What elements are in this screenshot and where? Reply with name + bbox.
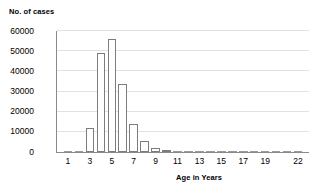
x-tick-label: 22 bbox=[287, 157, 309, 166]
bar-age-10 bbox=[162, 150, 171, 152]
bar-age-5 bbox=[108, 39, 117, 152]
bar-age-12 bbox=[184, 151, 193, 152]
bar-age-9 bbox=[151, 148, 160, 152]
x-tick-label: 15 bbox=[210, 157, 232, 166]
bar-age-8 bbox=[140, 141, 149, 152]
y-tick-label: 50000 bbox=[0, 47, 34, 56]
x-tick-label: 7 bbox=[123, 157, 145, 166]
bar-age-14 bbox=[206, 151, 215, 152]
y-tick-label: 10000 bbox=[0, 127, 34, 136]
histogram-chart: No. of cases 010000200003000040000500006… bbox=[0, 0, 327, 194]
bar-age-1 bbox=[64, 151, 73, 152]
x-tick-label: 3 bbox=[79, 157, 101, 166]
y-tick-label: 40000 bbox=[0, 67, 34, 76]
x-tick-label: 17 bbox=[232, 157, 254, 166]
x-tick-label: 13 bbox=[188, 157, 210, 166]
plot-area: 0100002000030000400005000060000 13579111… bbox=[57, 31, 309, 152]
y-tick-label: 0 bbox=[0, 148, 34, 157]
y-tick-label: 20000 bbox=[0, 107, 34, 116]
y-tick-label: 30000 bbox=[0, 87, 34, 96]
y-tick-label: 60000 bbox=[0, 27, 34, 36]
bar-age-6 bbox=[118, 84, 127, 152]
x-axis-line bbox=[56, 152, 309, 153]
bar-age-19 bbox=[261, 151, 270, 152]
x-tick-label: 9 bbox=[145, 157, 167, 166]
bar-age-22 bbox=[294, 151, 303, 152]
bar-age-7 bbox=[129, 124, 138, 152]
x-tick-label: 11 bbox=[167, 157, 189, 166]
bar-age-18 bbox=[250, 151, 259, 152]
x-tick-label: 19 bbox=[254, 157, 276, 166]
bar-age-3 bbox=[86, 128, 95, 152]
bar-age-17 bbox=[239, 151, 248, 152]
bar-age-20 bbox=[272, 151, 281, 152]
y-axis-title: No. of cases bbox=[9, 7, 54, 16]
bar-age-15 bbox=[217, 151, 226, 152]
bar-age-21 bbox=[283, 151, 292, 152]
bar-age-16 bbox=[228, 151, 237, 152]
x-tick-label: 5 bbox=[101, 157, 123, 166]
bar-age-4 bbox=[97, 53, 106, 152]
bar-age-13 bbox=[195, 151, 204, 152]
bar-age-11 bbox=[173, 151, 182, 152]
bar-series bbox=[57, 31, 309, 152]
x-tick-label: 1 bbox=[57, 157, 79, 166]
x-axis-title: Age in Years bbox=[176, 173, 222, 182]
bar-age-2 bbox=[75, 151, 84, 152]
